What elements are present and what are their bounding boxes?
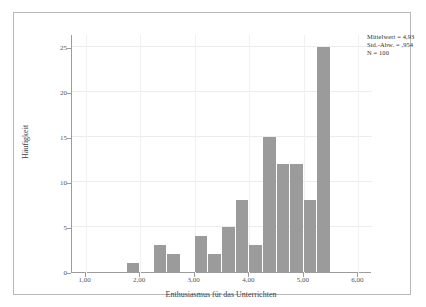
histogram-bar <box>290 164 303 272</box>
histogram-bar <box>208 254 221 272</box>
x-tick-label: 2,00 <box>119 276 159 285</box>
histogram-bar <box>222 227 235 272</box>
histogram-bar <box>167 254 180 272</box>
y-tick-mark <box>67 138 71 139</box>
y-tick-mark <box>67 273 71 274</box>
figure-frame: Häufigkeit 0510152025 1,002,003,004,005,… <box>13 12 411 295</box>
y-tick-label: 10 <box>41 179 67 187</box>
x-tick-mark <box>357 273 358 277</box>
y-tick-label: 15 <box>41 134 67 142</box>
histogram-bar <box>304 200 317 272</box>
y-tick-mark <box>67 183 71 184</box>
y-tick-label: 20 <box>41 89 67 97</box>
gridline-vertical <box>86 35 87 273</box>
histogram-bar <box>127 263 140 272</box>
histogram-bar <box>277 164 290 272</box>
histogram-bar <box>263 137 276 272</box>
x-tick-label: 1,00 <box>65 276 105 285</box>
stats-sd: Std.-Abw. = ,954 <box>367 41 414 49</box>
histogram-bar <box>236 200 249 272</box>
gridline-vertical <box>249 35 250 273</box>
y-tick-label: 5 <box>41 224 67 232</box>
x-tick-mark <box>303 273 304 277</box>
stats-n: N = 100 <box>367 49 414 57</box>
x-tick-mark <box>194 273 195 277</box>
y-tick-mark <box>67 48 71 49</box>
x-tick-mark <box>248 273 249 277</box>
x-tick-label: 5,00 <box>283 276 323 285</box>
histogram-bar <box>195 236 208 272</box>
histogram-bar <box>317 47 330 272</box>
y-tick-label: 25 <box>41 44 67 52</box>
gridline-vertical <box>140 35 141 273</box>
y-tick-mark <box>67 228 71 229</box>
y-axis-title: Häufigkeit <box>21 107 31 177</box>
histogram-bar <box>154 245 167 272</box>
stats-mean: Mittelwert = 4,93 <box>367 33 414 41</box>
x-tick-label: 3,00 <box>174 276 214 285</box>
x-axis-title: Enthusiasmus für das Unterrichten <box>71 290 371 300</box>
plot-area <box>71 35 371 273</box>
stats-annotation: Mittelwert = 4,93 Std.-Abw. = ,954 N = 1… <box>367 33 414 57</box>
x-axis-ticks: 1,002,003,004,005,006,00 <box>71 276 371 288</box>
x-tick-mark <box>85 273 86 277</box>
y-tick-mark <box>67 93 71 94</box>
histogram-figure: Häufigkeit 0510152025 1,002,003,004,005,… <box>0 0 426 307</box>
x-tick-mark <box>139 273 140 277</box>
histogram-bar <box>249 245 262 272</box>
gridline-vertical <box>358 35 359 273</box>
y-tick-label: 0 <box>41 269 67 277</box>
x-tick-label: 6,00 <box>337 276 377 285</box>
y-axis-ticks: 0510152025 <box>36 35 67 273</box>
x-tick-label: 4,00 <box>228 276 268 285</box>
